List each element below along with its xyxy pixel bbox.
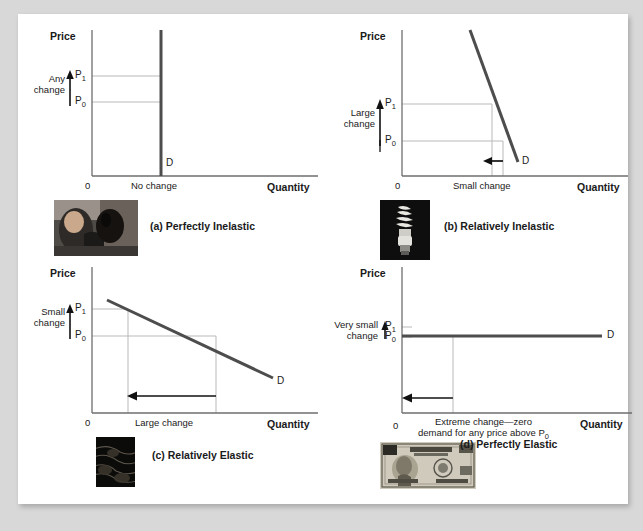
- panel-c-demand-label: D: [277, 375, 284, 387]
- panel-b-plot: [340, 28, 630, 203]
- panel-c-p1-letter: P: [75, 302, 82, 313]
- panel-a-p0-sub: 0: [82, 100, 86, 109]
- panel-b-price-change-line2: change: [335, 119, 375, 130]
- panel-d-demand-label: D: [607, 329, 614, 341]
- quantity-change-arrow-head: [402, 393, 412, 402]
- panel-d-price-low-label: P0: [385, 330, 396, 345]
- panel-a-p0-letter: P: [75, 95, 82, 106]
- demand-curve: [107, 300, 273, 378]
- quantity-change-arrow-head: [483, 157, 492, 165]
- panel-a-origin-label: 0: [85, 181, 90, 192]
- panel-a-y-axis-title: Price: [50, 30, 76, 42]
- panel-c-origin-label: 0: [85, 418, 90, 429]
- elasticity-figure: Price Quantity 0 P1 P0 Any change D No c…: [0, 0, 643, 531]
- panel-b-photo-image: [380, 200, 430, 260]
- panel-a-photo-image: [54, 200, 138, 256]
- panel-d-quantity-change-line2-text: demand for any price above P: [418, 427, 545, 438]
- panel-d-x-axis-title: Quantity: [580, 418, 623, 430]
- panel-a-price-change-label: Any change: [27, 74, 65, 96]
- panel-c-y-axis-title: Price: [50, 267, 76, 279]
- panel-a-plot: [30, 28, 320, 203]
- panel-a-demand-label: D: [166, 157, 173, 169]
- panel-a-p1-letter: P: [75, 69, 82, 80]
- panel-a-price-high-label: P1: [75, 69, 86, 84]
- panel-a-price-low-label: P0: [75, 95, 86, 110]
- panel-b-price-change-label: Large change: [335, 108, 375, 130]
- panel-c-plot: [30, 265, 320, 440]
- panel-c-photo: [96, 437, 135, 487]
- panel-b-photo: [380, 200, 430, 260]
- panel-a-price-change-line2: change: [27, 85, 65, 96]
- panel-d-price-change-line2: change: [318, 331, 378, 342]
- panel-b-origin-label: 0: [395, 181, 400, 192]
- panel-d-perfectly-elastic: Price Quantity 0 P1 P0 Very small change…: [340, 265, 635, 495]
- panel-b-quantity-change-label: Small change: [453, 181, 511, 192]
- panel-d-plot: [340, 265, 635, 440]
- panel-c-price-change-line2: change: [25, 318, 65, 329]
- panel-c-p1-sub: 1: [82, 307, 86, 316]
- panel-b-y-axis-title: Price: [360, 30, 386, 42]
- panel-a-quantity-change-label: No change: [131, 181, 177, 192]
- panel-c-price-high-label: P1: [75, 302, 86, 317]
- panel-b-relatively-inelastic: Price Quantity 0 P1 P0 Large change D Sm…: [340, 28, 630, 258]
- panel-b-price-high-label: P1: [385, 97, 396, 112]
- panel-d-y-axis-title: Price: [360, 267, 386, 279]
- panel-c-x-axis-title: Quantity: [267, 418, 310, 430]
- panel-c-relatively-elastic: Price Quantity 0 P1 P0 Small change D La…: [30, 265, 320, 495]
- panel-a-p1-sub: 1: [82, 74, 86, 83]
- panel-b-price-low-label: P0: [385, 134, 396, 149]
- panel-c-p0-letter: P: [75, 329, 82, 340]
- panel-c-price-change-label: Small change: [25, 307, 65, 329]
- panel-a-photo: [54, 200, 138, 256]
- panel-c-caption: (c) Relatively Elastic: [152, 449, 254, 461]
- panel-c-quantity-change-label: Large change: [135, 418, 193, 429]
- demand-curve: [470, 30, 518, 162]
- panel-b-p0-letter: P: [385, 134, 392, 145]
- panel-b-caption: (b) Relatively Inelastic: [444, 220, 554, 232]
- panel-b-x-axis-title: Quantity: [577, 181, 620, 193]
- panel-c-p0-sub: 0: [82, 334, 86, 343]
- panel-d-p0-letter: P: [385, 330, 392, 341]
- panel-c-photo-image: [96, 437, 135, 487]
- panel-d-price-change-label: Very small change: [318, 320, 378, 342]
- panel-b-p1-letter: P: [385, 97, 392, 108]
- price-change-arrow-head: [66, 70, 74, 79]
- panel-a-caption: (a) Perfectly Inelastic: [150, 220, 255, 232]
- price-change-arrow-head: [66, 304, 74, 313]
- panel-a-x-axis-title: Quantity: [267, 181, 310, 193]
- panel-a-perfectly-inelastic: Price Quantity 0 P1 P0 Any change D No c…: [30, 28, 320, 258]
- panel-b-p0-sub: 0: [392, 139, 396, 148]
- panel-b-p1-sub: 1: [392, 102, 396, 111]
- panel-d-caption: (d) Perfectly Elastic: [460, 438, 557, 450]
- panel-b-demand-label: D: [522, 155, 529, 167]
- price-change-arrow-head-up: [376, 99, 384, 109]
- panel-d-p0-sub: 0: [392, 335, 396, 344]
- panel-c-price-low-label: P0: [75, 329, 86, 344]
